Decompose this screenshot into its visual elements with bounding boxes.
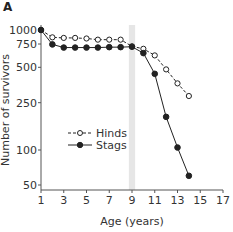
y-tick-label: 50 [23,179,37,192]
x-axis-label: Age (years) [100,215,164,228]
open-circle-marker [164,67,169,72]
filled-circle-marker [141,50,147,56]
open-circle-marker [107,37,112,42]
y-tick-label: 250 [16,97,37,110]
y-tick-label: 500 [16,61,37,74]
x-tick-label: 17 [216,194,230,207]
open-circle-marker [175,81,180,86]
legend-label: Stags [96,139,127,152]
filled-circle-marker [129,44,135,50]
x-tick-label: 9 [129,194,136,207]
open-circle-marker [50,35,55,40]
filled-circle-marker [106,44,112,50]
y-tick-label: 100 [16,144,37,157]
series-hinds [38,27,191,98]
filled-circle-marker [186,173,192,179]
open-circle-icon [78,131,83,136]
open-circle-marker [186,93,191,98]
series-stags [38,27,191,178]
filled-circle-marker [72,45,78,51]
filled-circle-marker [118,44,124,50]
x-tick-label: 13 [171,194,185,207]
legend: HindsStags [68,127,127,152]
filled-circle-marker [38,27,44,33]
open-circle-marker [118,37,123,42]
axes: 1357911131517501002505007501000 [9,24,230,207]
open-circle-marker [73,35,78,40]
y-tick-label: 750 [16,38,37,51]
open-circle-marker [84,36,89,41]
data-series [38,27,191,178]
x-tick-label: 11 [148,194,162,207]
filled-circle-marker [175,145,181,151]
filled-circle-marker [61,45,67,51]
x-tick-label: 15 [193,194,207,207]
open-circle-marker [95,37,100,42]
filled-circle-marker [152,71,158,77]
x-tick-label: 7 [106,194,113,207]
filled-circle-marker [95,45,101,51]
survivorship-chart: 1357911131517501002505007501000 HindsSta… [0,0,233,232]
filled-circle-marker [50,42,56,48]
filled-circle-marker [84,45,90,51]
x-tick-label: 1 [38,194,45,207]
open-circle-marker [152,53,157,58]
legend-item-stags: Stags [68,139,127,152]
filled-circle-icon [77,142,82,147]
filled-circle-marker [163,114,169,120]
x-tick-label: 5 [83,194,90,207]
open-circle-marker [61,35,66,40]
y-axis-label: Number of survivors [0,54,12,166]
x-tick-label: 3 [60,194,67,207]
y-tick-label: 1000 [9,24,37,37]
